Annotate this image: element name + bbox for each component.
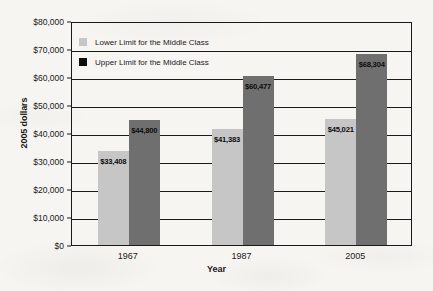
y-axis-tick-label: $80,000 bbox=[0, 17, 64, 27]
bar-lower-limit-2005 bbox=[325, 119, 356, 245]
legend-label-lower-limit: Lower Limit for the Middle Class bbox=[95, 38, 209, 47]
bar-value-label: $33,408 bbox=[100, 157, 126, 166]
y-axis-tick-label: $0 bbox=[0, 241, 64, 251]
bar-value-label: $60,477 bbox=[245, 82, 271, 91]
y-axis-tick-label: $20,000 bbox=[0, 185, 64, 195]
bar-value-label: $45,021 bbox=[328, 125, 354, 134]
bar-upper-limit-1987 bbox=[243, 76, 274, 245]
y-axis-tick-label: $60,000 bbox=[0, 73, 64, 83]
bar-upper-limit-1967 bbox=[129, 120, 160, 245]
y-axis-tick-label: $10,000 bbox=[0, 213, 64, 223]
legend-swatch-upper-limit bbox=[79, 58, 87, 66]
bar-lower-limit-1987 bbox=[212, 129, 243, 245]
legend-item-lower-limit: Lower Limit for the Middle Class bbox=[79, 32, 209, 52]
bar-value-label: $68,304 bbox=[359, 60, 385, 69]
x-axis-tick-label: 1967 bbox=[118, 251, 138, 261]
bar-value-label: $41,383 bbox=[214, 135, 240, 144]
x-axis-tick-label: 2005 bbox=[345, 251, 365, 261]
y-axis-tick-label: $40,000 bbox=[0, 129, 64, 139]
y-axis-tick-label: $70,000 bbox=[0, 45, 64, 55]
legend-swatch-lower-limit bbox=[79, 38, 87, 46]
chart-screenshot: 2005 dollars $0$10,000$20,000$30,000$40,… bbox=[0, 0, 433, 291]
chart-legend: Lower Limit for the Middle Class Upper L… bbox=[79, 32, 209, 72]
y-axis-tick-label: $30,000 bbox=[0, 157, 64, 167]
bar-value-label: $44,800 bbox=[131, 126, 157, 135]
y-axis-tick-label: $50,000 bbox=[0, 101, 64, 111]
x-axis-title: Year bbox=[0, 264, 433, 274]
legend-item-upper-limit: Upper Limit for the Middle Class bbox=[79, 52, 209, 72]
bar-upper-limit-2005 bbox=[356, 54, 387, 245]
x-axis-tick-label: 1987 bbox=[231, 251, 251, 261]
legend-label-upper-limit: Upper Limit for the Middle Class bbox=[95, 58, 209, 67]
